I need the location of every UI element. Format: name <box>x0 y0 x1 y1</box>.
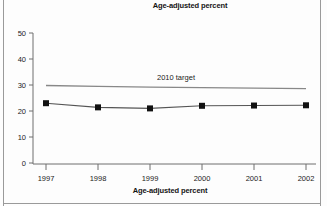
line-chart-plot: 50 40 30 20 10 0 1997 1998 1999 2000 200… <box>0 0 327 206</box>
data-point-marker <box>303 102 309 108</box>
y-tick-label-40: 40 <box>18 55 26 64</box>
x-axis-title: Age-adjusted percent <box>80 186 260 195</box>
x-tick-label-1998: 1998 <box>90 174 107 183</box>
x-tick-label-2000: 2000 <box>194 174 211 183</box>
data-point-marker <box>251 103 257 109</box>
data-point-marker <box>95 104 101 110</box>
x-tick-label-2001: 2001 <box>246 174 263 183</box>
target-line <box>46 86 306 89</box>
y-tick-label-50: 50 <box>18 29 26 38</box>
data-point-marker <box>43 100 49 106</box>
y-tick-label-10: 10 <box>18 133 26 142</box>
y-tick-label-0: 0 <box>22 159 26 168</box>
y-tick-label-30: 30 <box>18 81 26 90</box>
y-tick-label-20: 20 <box>18 107 26 116</box>
data-point-marker <box>199 103 205 109</box>
x-tick-label-2002: 2002 <box>298 174 315 183</box>
x-tick-label-1999: 1999 <box>142 174 159 183</box>
x-tick-label-1997: 1997 <box>38 174 55 183</box>
target-annotation-label: 2010 target <box>157 73 196 82</box>
chart-page: Age-adjusted percent 50 40 30 20 10 0 19… <box>0 0 327 206</box>
data-series-line <box>46 103 306 108</box>
data-point-marker <box>147 105 153 111</box>
